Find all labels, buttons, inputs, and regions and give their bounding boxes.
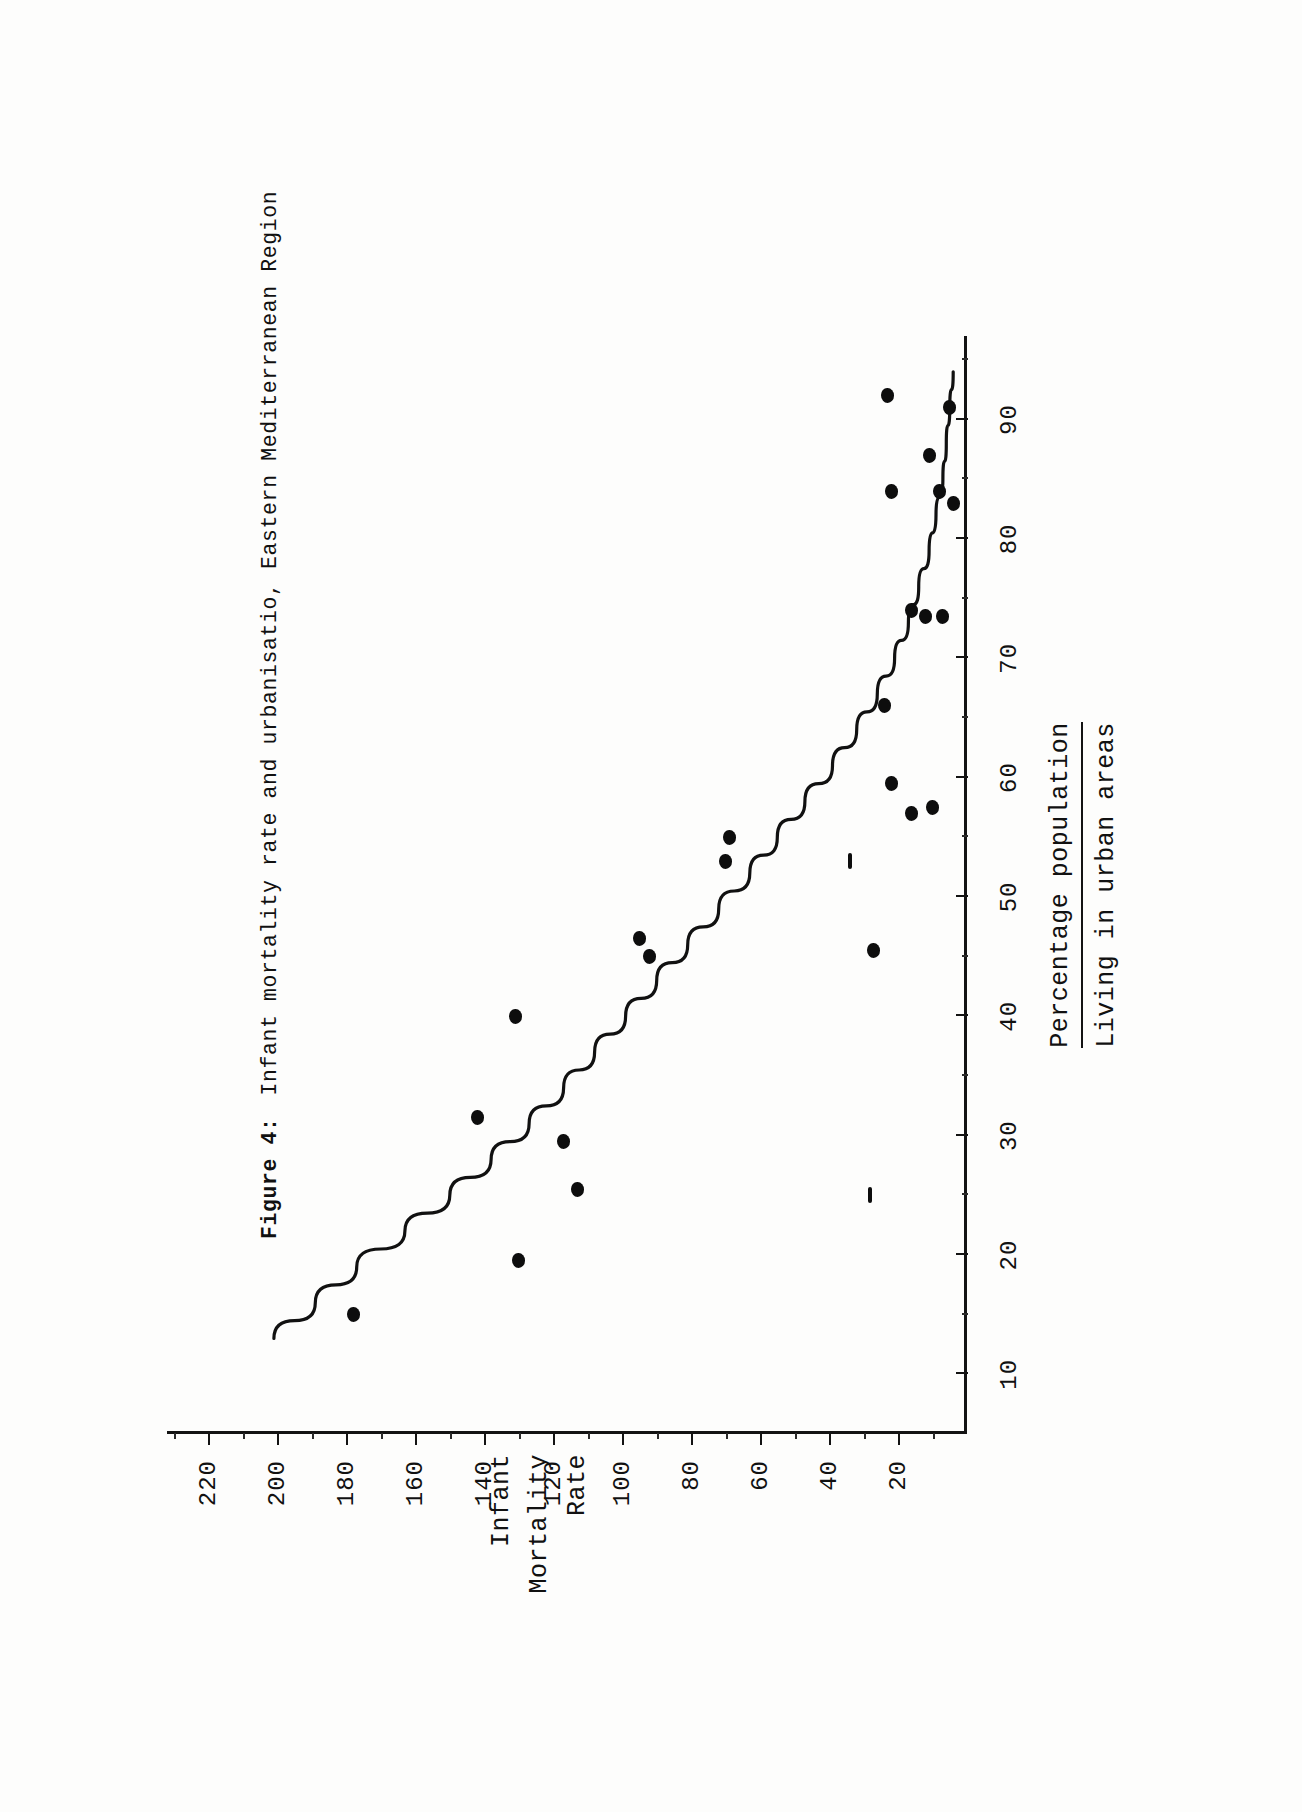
x-tick-minor [962,358,968,360]
x-tick-minor [962,1074,968,1076]
x-tick-minor [962,835,968,837]
x-tick-major [956,1134,968,1136]
data-point [885,776,898,791]
data-point [719,854,732,869]
y-tick-major [898,1433,900,1445]
x-tick-label: 40 [996,1001,1023,1032]
x-axis-title: Percentage population Living in urban ar… [1041,336,1127,1434]
data-point [571,1182,584,1197]
x-axis-title-line1: Percentage population [1041,336,1081,1434]
plot-area: 102030405060708090 204060801001201401601… [167,336,967,1434]
y-axis-title-line1: Infant [483,1454,521,1684]
scanned-figure-page: Figure 4:Infant mortality rate and urban… [0,0,1302,1812]
x-axis-title-line2: Living in urban areas [1081,722,1127,1048]
y-axis-title: Infant Mortality Rate [483,1454,597,1684]
x-tick-label: 60 [996,762,1023,793]
data-point [633,931,646,946]
y-tick-label: 100 [609,1460,636,1506]
data-point [923,448,936,463]
curve-break [379,1226,398,1240]
y-tick-major [760,1433,762,1445]
data-point [723,830,736,845]
y-tick-major [484,1433,486,1445]
y-tick-label: 160 [402,1460,429,1506]
x-tick-major [956,776,968,778]
y-tick-label: 40 [816,1460,843,1491]
x-tick-label: 20 [996,1240,1023,1271]
x-tick-label: 10 [996,1359,1023,1390]
data-point [947,496,960,511]
fitted-curve [167,336,967,1434]
data-point [885,484,898,499]
data-point [933,484,946,499]
x-tick-major [956,537,968,539]
x-tick-minor [962,955,968,957]
y-tick-minor [312,1433,314,1439]
x-tick-minor [962,1313,968,1315]
x-tick-label: 90 [996,404,1023,435]
x-tick-minor [962,1193,968,1195]
y-axis-title-line2: Mortality [521,1454,559,1684]
y-tick-major [622,1433,624,1445]
y-tick-major [553,1433,555,1445]
y-tick-minor [450,1433,452,1439]
x-tick-label: 50 [996,882,1023,913]
y-tick-minor [726,1433,728,1439]
x-tick-major [956,1253,968,1255]
y-tick-minor [933,1433,935,1439]
x-tick-minor [962,597,968,599]
y-tick-minor [243,1433,245,1439]
x-tick-minor [962,477,968,479]
y-tick-minor [795,1433,797,1439]
y-tick-major [415,1433,417,1445]
y-tick-minor [174,1433,176,1439]
data-point [926,800,939,815]
y-tick-label: 200 [264,1460,291,1506]
data-point [919,609,932,624]
y-tick-major [277,1433,279,1445]
y-tick-label: 20 [885,1460,912,1491]
y-tick-major [346,1433,348,1445]
data-point [848,853,852,869]
y-tick-label: 220 [195,1460,222,1506]
y-axis-title-line3: Rate [559,1454,597,1684]
x-tick-major [956,1014,968,1016]
x-tick-label: 70 [996,643,1023,674]
x-tick-major [956,1372,968,1374]
data-point [347,1307,360,1322]
x-tick-major [956,418,968,420]
y-tick-major [208,1433,210,1445]
x-tick-minor [962,716,968,718]
y-tick-minor [588,1433,590,1439]
y-tick-minor [381,1433,383,1439]
data-point [471,1110,484,1125]
y-tick-major [829,1433,831,1445]
data-point [868,1187,872,1203]
data-point [509,1009,522,1024]
y-tick-minor [864,1433,866,1439]
x-tick-label: 30 [996,1120,1023,1151]
y-tick-minor [519,1433,521,1439]
x-tick-label: 80 [996,524,1023,555]
x-tick-major [956,895,968,897]
y-tick-minor [657,1433,659,1439]
y-tick-label: 180 [333,1460,360,1506]
x-tick-major [956,656,968,658]
chart-stage: 102030405060708090 204060801001201401601… [111,246,1191,1566]
y-tick-label: 80 [678,1460,705,1491]
y-tick-major [691,1433,693,1445]
data-point [557,1134,570,1149]
y-tick-label: 60 [747,1460,774,1491]
